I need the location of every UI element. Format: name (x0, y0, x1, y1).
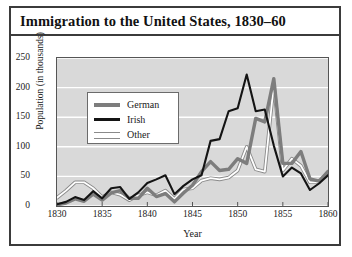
y-tick-50: 50 (0, 171, 30, 181)
x-tick-1855: 1855 (263, 210, 303, 220)
x-tick-1830: 1830 (37, 210, 77, 220)
y-axis-label: Population (in thousands) (35, 6, 45, 156)
chart-card: Immigration to the United States, 1830–6… (9, 6, 341, 246)
legend-item-irish: Irish (88, 112, 178, 127)
chart-title: Immigration to the United States, 1830–6… (11, 13, 286, 30)
x-tick-1850: 1850 (218, 210, 258, 220)
legend-label-other: Other (127, 130, 150, 140)
x-axis-label: Year (56, 228, 329, 239)
y-tick-150: 150 (0, 112, 30, 122)
y-tick-0: 0 (0, 201, 30, 211)
x-tick-1840: 1840 (127, 210, 167, 220)
y-tick-250: 250 (0, 53, 30, 63)
y-tick-200: 200 (0, 83, 30, 93)
figure-root: Immigration to the United States, 1830–6… (0, 0, 352, 257)
legend-swatch-german-line-icon (94, 100, 120, 110)
legend-swatch-irish-line-icon (94, 115, 120, 125)
legend-box: German Irish Other (87, 92, 179, 144)
y-tick-100: 100 (0, 142, 30, 152)
legend-item-german: German (88, 97, 178, 112)
legend-label-german: German (127, 100, 159, 110)
legend-label-irish: Irish (127, 115, 145, 125)
title-band: Immigration to the United States, 1830–6… (11, 8, 339, 36)
legend-item-other: Other (88, 127, 178, 142)
x-tick-1845: 1845 (173, 210, 213, 220)
x-tick-1835: 1835 (82, 210, 122, 220)
plot-area-wrapper: Population (in thousands) 05010015020025… (11, 36, 339, 244)
x-tick-1860: 1860 (308, 210, 348, 220)
legend-swatch-other-line-icon (94, 130, 120, 140)
